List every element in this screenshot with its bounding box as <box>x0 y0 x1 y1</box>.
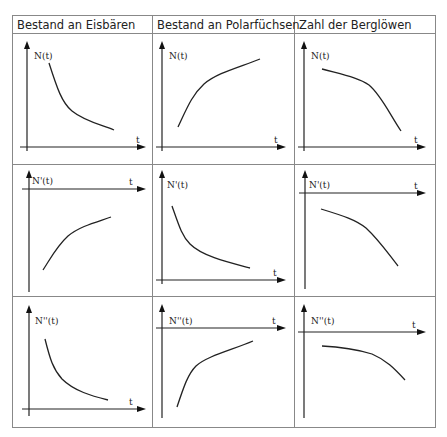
x-axis-label: t <box>129 177 133 187</box>
y-axis-label: N''(t) <box>169 316 192 326</box>
header-polarfuechse: Bestand an Polarfüchsen <box>153 16 294 34</box>
curve <box>322 346 405 380</box>
x-axis-label: t <box>129 397 133 407</box>
y-axis-arrow-icon <box>159 41 165 49</box>
graph-polarfuechse-n: N(t) t <box>152 33 294 164</box>
x-axis-arrow-icon <box>277 325 286 331</box>
curve <box>321 209 398 266</box>
y-axis-label: N''(t) <box>311 316 334 326</box>
y-axis-arrow-icon <box>159 304 165 312</box>
graph-eisbaeren-n-double-prime: N''(t) t <box>12 296 152 428</box>
x-axis-arrow-icon <box>417 190 426 196</box>
y-axis-label: N'(t) <box>32 176 53 186</box>
y-axis-arrow-icon <box>301 41 307 49</box>
y-axis-label: N(t) <box>34 51 53 61</box>
y-axis-label: N'(t) <box>309 180 330 190</box>
y-axis-arrow-icon <box>26 305 32 313</box>
y-axis-arrow-icon <box>159 170 165 178</box>
curve <box>43 217 111 270</box>
curve <box>178 59 260 127</box>
y-axis-arrow-icon <box>24 41 30 49</box>
y-axis-arrow-icon <box>301 304 307 312</box>
x-axis-label: t <box>414 181 418 191</box>
curve <box>49 63 114 130</box>
x-axis-label: t <box>274 135 278 145</box>
graph-eisbaeren-n: N(t) t <box>12 33 152 164</box>
graph-polarfuechse-n-prime: N'(t) t <box>152 164 294 296</box>
y-axis-label: N(t) <box>169 51 188 61</box>
y-axis-arrow-icon <box>302 170 308 178</box>
x-axis-label: t <box>136 135 140 145</box>
x-axis-arrow-icon <box>417 144 426 150</box>
x-axis-arrow-icon <box>277 144 286 150</box>
graph-bergloewen-n-prime: N'(t) t <box>294 164 436 296</box>
curve <box>172 206 250 268</box>
x-axis-arrow-icon <box>137 406 146 412</box>
x-axis-label: t <box>272 316 276 326</box>
curve <box>45 339 108 400</box>
header-eisbaeren: Bestand an Eisbären <box>13 16 152 34</box>
graph-bergloewen-n-double-prime: N''(t) t <box>294 296 436 428</box>
header-bergloewen: Zahl der Berglöwen <box>295 16 436 34</box>
graph-polarfuechse-n-double-prime: N''(t) t <box>152 296 294 428</box>
x-axis-arrow-icon <box>417 329 426 335</box>
x-axis-label: t <box>273 268 277 278</box>
x-axis-label: t <box>414 135 418 145</box>
x-axis-arrow-icon <box>277 277 286 283</box>
x-axis-arrow-icon <box>137 186 146 192</box>
graph-bergloewen-n: N(t) t <box>294 33 436 164</box>
y-axis-label: N'(t) <box>167 180 188 190</box>
curve <box>322 69 401 131</box>
curve <box>177 341 253 407</box>
y-axis-label: N(t) <box>311 51 330 61</box>
graph-eisbaeren-n-prime: N'(t) t <box>12 164 152 296</box>
y-axis-label: N''(t) <box>35 316 58 326</box>
x-axis-label: t <box>412 320 416 330</box>
